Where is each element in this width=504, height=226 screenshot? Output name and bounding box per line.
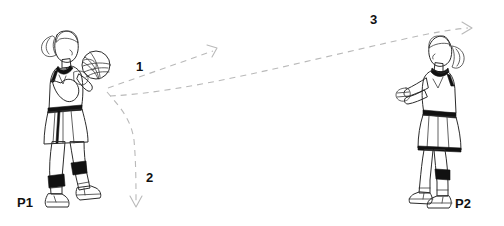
- path-1-line: [108, 51, 213, 88]
- p1-shoe-back: [45, 194, 69, 207]
- p1-ponytail-strand: [46, 38, 50, 54]
- p2-hands: [396, 88, 410, 101]
- path-label-3: 3: [370, 12, 377, 27]
- p1-shoe-back-detail: [47, 196, 68, 202]
- p1-kneepad-back: [48, 174, 65, 188]
- p2-face-line: [433, 54, 435, 59]
- p1-far-arm: [77, 74, 92, 91]
- p2-shoe-back: [427, 196, 451, 208]
- diagram-canvas: P1: [0, 0, 504, 226]
- path-1-group: [108, 45, 217, 88]
- p1-sock-front: [78, 182, 89, 184]
- p2-jersey-seam: [433, 77, 443, 88]
- p1-skirt-pleat-3: [71, 110, 74, 143]
- player-label-p1: P1: [17, 195, 33, 210]
- path-2-group: [107, 92, 142, 207]
- p1-face-line: [70, 50, 72, 55]
- p2-skirt-pleat-3: [447, 117, 449, 150]
- p1-shoe-front-detail: [77, 188, 100, 195]
- p2-arm-upper: [404, 78, 428, 97]
- p2-finger-line-1: [397, 92, 409, 93]
- p1-near-arm: [52, 79, 79, 101]
- p2-shoe-front-detail: [409, 193, 433, 199]
- p2-leg-front: [419, 150, 433, 193]
- p2-ankle-band: [435, 169, 450, 180]
- path-3-group: [110, 22, 472, 96]
- path-label-2: 2: [146, 170, 153, 185]
- p1-kneepad-front: [71, 161, 87, 175]
- player-p2: P2: [396, 36, 471, 211]
- p2-skirt: [418, 115, 461, 150]
- path-label-1: 1: [136, 59, 143, 74]
- p1-skirt-stripe: [56, 111, 60, 143]
- player-label-p2: P2: [455, 196, 471, 211]
- player-p1: P1: [17, 31, 110, 210]
- path-3-line: [110, 28, 468, 96]
- p2-skirt-pleat-1: [427, 116, 429, 149]
- p1-skirt-pleat-1: [53, 112, 55, 143]
- p2-collar: [431, 68, 449, 77]
- p1-skirt: [44, 109, 88, 144]
- p2-ponytail-strand: [456, 49, 460, 66]
- p2-shoe-front: [409, 192, 432, 204]
- drill-diagram-svg: P1: [0, 0, 504, 226]
- p2-skirt-hem: [418, 146, 461, 152]
- path-2-line: [107, 92, 136, 203]
